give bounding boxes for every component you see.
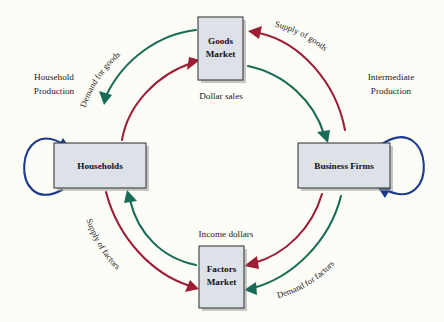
flow-income-dollars-right — [244, 194, 322, 269]
flow-income-dollars-right-path — [254, 194, 322, 263]
node-households[interactable]: Households — [54, 143, 149, 191]
flow-supply-of-goods-path — [259, 33, 345, 130]
arrowhead-into-business-firms-top-green — [317, 130, 330, 143]
income-dollars-label: Income dollars — [199, 229, 254, 239]
arrowhead-into-goods-market-right-red — [248, 26, 262, 39]
goods-market-label-line1: Goods — [208, 36, 233, 46]
households-label: Households — [77, 161, 123, 171]
flow-supply-of-factors-path — [106, 192, 190, 286]
arrowhead-into-households-top-green — [99, 91, 112, 105]
flow-goods-to-firms-path — [248, 66, 324, 134]
arc-label-demand-for-factors: Demand for factors — [276, 258, 337, 300]
factors-market-label-line2: Market — [207, 277, 238, 287]
household-production-label-line2: Production — [34, 86, 75, 96]
node-goods-market[interactable]: Goods Market — [198, 17, 246, 83]
flow-supply-of-goods — [248, 26, 345, 130]
flow-demand-for-factors — [244, 196, 341, 295]
factors-market-label-line1: Factors — [207, 264, 237, 274]
household-production-label-line1: Household — [34, 72, 74, 82]
intermediate-production-label-line1: Intermediate — [368, 72, 414, 82]
flow-demand-for-factors-path — [253, 196, 341, 288]
flow-dollar-sales-left-path — [122, 63, 192, 140]
business-firms-label: Business Firms — [314, 161, 374, 171]
node-factors-market[interactable]: Factors Market — [199, 246, 247, 311]
node-business-firms[interactable]: Business Firms — [298, 143, 393, 191]
arc-label-supply-of-goods: Supply of goods — [274, 19, 330, 53]
intermediate-production-label-line2: Production — [371, 86, 412, 96]
dollar-sales-label: Dollar sales — [199, 91, 243, 101]
flow-income-dollars-left-path — [130, 200, 196, 265]
circular-flow-diagram: Goods Market Households Business Firms F… — [0, 0, 444, 322]
arrowhead-into-households-bottom-green — [124, 190, 137, 203]
flow-income-dollars-left — [124, 190, 196, 265]
goods-market-label-line2: Market — [206, 49, 237, 59]
arc-label-supply-of-factors: Supply of factors — [84, 217, 123, 272]
flow-demand-for-goods-path — [106, 30, 196, 96]
flow-goods-to-firms — [248, 66, 330, 143]
diagram-canvas: Goods Market Households Business Firms F… — [0, 0, 444, 322]
flow-dollar-sales-left — [122, 57, 200, 140]
